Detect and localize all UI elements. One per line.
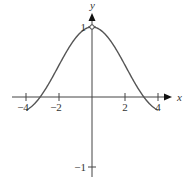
open-circle-marker: [90, 25, 94, 29]
x-tick-label: −4: [17, 101, 29, 113]
y-axis-label: y: [89, 0, 95, 11]
chart: −4−2241−1xy: [0, 0, 187, 177]
x-axis-arrow-icon: [164, 94, 172, 101]
x-tick-label: 4: [155, 101, 161, 113]
tick-labels: −4−2241−1xy: [17, 0, 182, 173]
y-tick-label: −1: [74, 161, 86, 173]
x-tick-label: −2: [50, 101, 62, 113]
x-tick-label: 2: [122, 101, 128, 113]
x-axis-label: x: [176, 91, 182, 103]
y-axis-arrow-icon: [89, 13, 96, 21]
y-tick-label: 1: [81, 21, 87, 33]
axes: [12, 13, 172, 177]
